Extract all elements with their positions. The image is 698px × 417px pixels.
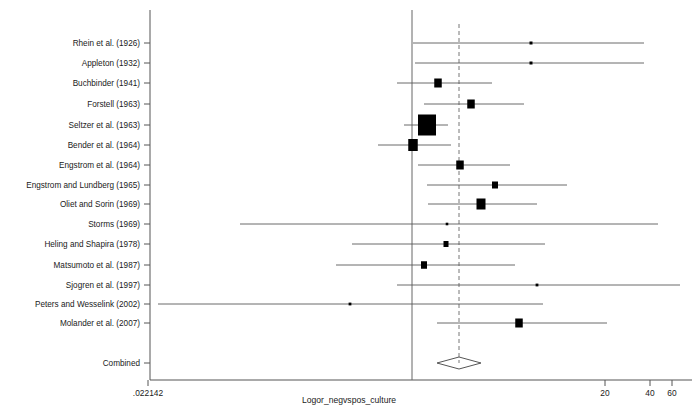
effect-size-marker bbox=[467, 100, 475, 109]
study-label: Molander et al. (2007) bbox=[0, 319, 140, 328]
effect-size-marker bbox=[418, 115, 436, 136]
effect-size-marker bbox=[421, 261, 427, 269]
effect-size-marker bbox=[530, 62, 533, 65]
combined-label: Combined bbox=[0, 359, 140, 368]
study-label: Engstrom et al. (1964) bbox=[0, 161, 140, 170]
study-label: Sjogren et al. (1997) bbox=[0, 281, 140, 290]
effect-size-marker bbox=[444, 241, 449, 247]
effect-size-marker bbox=[408, 139, 418, 151]
effect-size-marker bbox=[515, 319, 523, 328]
study-label: Engstrom and Lundberg (1965) bbox=[0, 181, 140, 190]
study-label: Rhein et al. (1926) bbox=[0, 39, 140, 48]
effect-size-marker bbox=[536, 284, 539, 287]
study-row bbox=[437, 319, 607, 328]
x-axis-ticks bbox=[148, 380, 672, 386]
study-label: Appleton (1932) bbox=[0, 59, 140, 68]
plot-axes bbox=[150, 10, 692, 380]
y-axis-ticks bbox=[144, 43, 150, 363]
study-label: Oliet and Sorin (1969) bbox=[0, 200, 140, 209]
study-rows bbox=[158, 42, 680, 328]
study-row bbox=[415, 62, 644, 65]
study-row bbox=[240, 223, 658, 226]
study-row bbox=[418, 161, 510, 170]
study-row bbox=[428, 199, 537, 210]
effect-size-marker bbox=[456, 161, 464, 170]
study-row bbox=[404, 115, 448, 136]
study-row bbox=[397, 284, 680, 287]
effect-size-marker bbox=[349, 303, 352, 306]
study-row bbox=[336, 261, 515, 269]
reference-lines bbox=[412, 10, 459, 380]
study-label: Heling and Shapira (1978) bbox=[0, 240, 140, 249]
study-row bbox=[397, 79, 492, 88]
effect-size-marker bbox=[434, 79, 442, 88]
effect-size-marker bbox=[530, 42, 533, 45]
effect-size-marker bbox=[477, 199, 486, 210]
study-label: Peters and Wesselink (2002) bbox=[0, 300, 140, 309]
effect-size-marker bbox=[492, 182, 498, 189]
study-label: Storms (1969) bbox=[0, 220, 140, 229]
study-label: Forstell (1963) bbox=[0, 100, 140, 109]
study-row bbox=[158, 303, 543, 306]
x-axis-title: Logor_negvspos_culture bbox=[0, 395, 698, 405]
study-label: Bender et al. (1964) bbox=[0, 141, 140, 150]
study-row bbox=[427, 182, 567, 189]
study-label: Buchbinder (1941) bbox=[0, 79, 140, 88]
study-row bbox=[378, 139, 451, 151]
effect-size-marker bbox=[446, 223, 449, 226]
study-row bbox=[413, 42, 644, 45]
study-row bbox=[424, 100, 524, 109]
study-label: Seltzer et al. (1963) bbox=[0, 121, 140, 130]
study-row bbox=[352, 241, 545, 247]
study-label: Matsumoto et al. (1987) bbox=[0, 261, 140, 270]
